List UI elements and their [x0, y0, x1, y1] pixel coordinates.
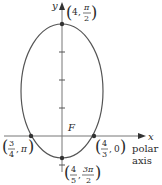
svg-text:4: 4 — [102, 139, 107, 148]
svg-text:,: , — [78, 170, 81, 180]
x-axis-arrow-icon — [138, 133, 146, 139]
svg-text:): ) — [120, 137, 126, 156]
svg-text:,: , — [78, 7, 81, 17]
y-axis-arrow-icon — [59, 2, 65, 10]
svg-text:π: π — [20, 144, 28, 154]
focus-label: F — [67, 122, 76, 133]
label-bottom-vertex: ( 4 5 , 3π 2 ) — [64, 163, 101, 185]
svg-text:2: 2 — [86, 176, 91, 185]
svg-text:3: 3 — [9, 139, 14, 148]
x-axis-label: x — [148, 131, 154, 142]
svg-text:3π: 3π — [83, 165, 94, 174]
svg-text:π: π — [83, 3, 90, 12]
svg-text:4: 4 — [71, 165, 76, 174]
svg-text:2: 2 — [84, 14, 89, 23]
svg-text:,: , — [109, 144, 112, 154]
point-bottom-vertex — [60, 156, 64, 160]
polar-axis-label-line2: axis — [132, 155, 152, 166]
svg-text:(: ( — [95, 137, 101, 156]
label-top-vertex: ( 4 , π 2 ) — [66, 3, 97, 23]
point-top-vertex — [60, 22, 64, 26]
svg-text:4: 4 — [9, 150, 14, 159]
svg-text:(: ( — [2, 137, 8, 156]
label-left-intercept: ( 3 4 , π ) — [2, 137, 34, 159]
svg-text:5: 5 — [71, 176, 76, 185]
svg-text:): ) — [28, 137, 34, 156]
label-right-intercept: ( 4 3 , 0 ) — [95, 137, 126, 159]
polar-axis-label-line1: polar — [132, 143, 159, 154]
svg-text:3: 3 — [102, 150, 107, 159]
svg-text:): ) — [95, 163, 101, 182]
svg-text:(: ( — [64, 163, 70, 182]
svg-text:): ) — [91, 3, 97, 22]
polar-ellipse-diagram: y x F polar axis ( 4 , π 2 ) ( 3 4 , π )… — [0, 0, 162, 185]
y-axis-label: y — [51, 0, 58, 11]
svg-text:,: , — [16, 144, 19, 154]
